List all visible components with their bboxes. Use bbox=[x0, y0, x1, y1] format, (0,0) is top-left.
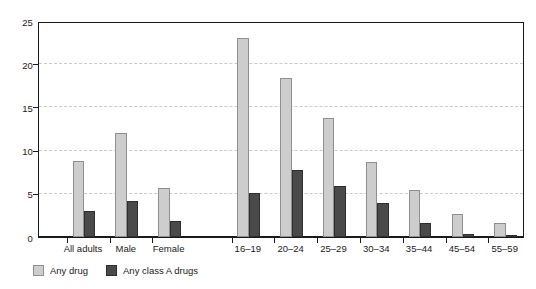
bar-chart: 0510152025 All adultsMaleFemale16–1920–2… bbox=[0, 0, 536, 289]
legend-label: Any class A drugs bbox=[123, 265, 198, 276]
plot-area bbox=[38, 22, 524, 238]
y-tick-label-25: 25 bbox=[22, 17, 33, 27]
bar-55–59-any-drug bbox=[494, 223, 505, 237]
bar-30–34-any-class-a-drugs bbox=[377, 203, 388, 237]
x-axis-label-55–59: 55–59 bbox=[492, 243, 518, 255]
bar-20–24-any-drug bbox=[280, 78, 291, 237]
x-axis-label-male: Male bbox=[115, 243, 136, 255]
bar-55–59-any-class-a-drugs bbox=[506, 235, 517, 237]
bar-45–54-any-class-a-drugs bbox=[463, 234, 474, 237]
x-axis-label-30–34: 30–34 bbox=[363, 243, 389, 255]
bar-20–24-any-class-a-drugs bbox=[292, 170, 303, 237]
y-tick-label-10: 10 bbox=[22, 147, 33, 157]
chart-legend: Any drugAny class A drugs bbox=[33, 265, 198, 276]
y-tick-label-20: 20 bbox=[22, 60, 33, 70]
legend-item-any-drug[interactable]: Any drug bbox=[33, 265, 88, 276]
legend-swatch-icon-dark bbox=[106, 265, 117, 276]
legend-item-any-class-a-drugs[interactable]: Any class A drugs bbox=[106, 265, 198, 276]
legend-label: Any drug bbox=[50, 265, 88, 276]
bar-45–54-any-drug bbox=[452, 214, 463, 237]
bar-male-any-class-a-drugs bbox=[127, 201, 138, 237]
bar-35–44-any-drug bbox=[409, 190, 420, 237]
bar-35–44-any-class-a-drugs bbox=[420, 223, 431, 237]
y-tick-label-15: 15 bbox=[22, 104, 33, 114]
bar-25–29-any-drug bbox=[323, 118, 334, 237]
x-axis-labels: All adultsMaleFemale16–1920–2425–2930–34… bbox=[38, 243, 524, 259]
x-axis-label-20–24: 20–24 bbox=[277, 243, 303, 255]
legend-swatch-icon-light bbox=[33, 265, 44, 276]
bar-all-adults-any-drug bbox=[73, 161, 84, 237]
bar-16–19-any-drug bbox=[237, 38, 248, 237]
bar-16–19-any-class-a-drugs bbox=[249, 193, 260, 237]
bar-30–34-any-drug bbox=[366, 162, 377, 237]
bar-female-any-class-a-drugs bbox=[170, 221, 181, 237]
x-axis-label-35–44: 35–44 bbox=[406, 243, 432, 255]
x-axis-label-25–29: 25–29 bbox=[320, 243, 346, 255]
bar-25–29-any-class-a-drugs bbox=[334, 186, 345, 237]
bars-layer bbox=[39, 23, 523, 237]
x-axis-label-45–54: 45–54 bbox=[449, 243, 475, 255]
y-tick-label-5: 5 bbox=[28, 190, 33, 200]
bar-all-adults-any-class-a-drugs bbox=[84, 211, 95, 237]
y-tick-label-0: 0 bbox=[28, 233, 33, 243]
x-axis-label-16–19: 16–19 bbox=[235, 243, 261, 255]
bar-female-any-drug bbox=[158, 188, 169, 237]
x-axis-label-female: Female bbox=[153, 243, 185, 255]
bar-male-any-drug bbox=[115, 133, 126, 237]
x-axis-label-all-adults: All adults bbox=[64, 243, 103, 255]
y-axis: 0510152025 bbox=[0, 22, 33, 238]
